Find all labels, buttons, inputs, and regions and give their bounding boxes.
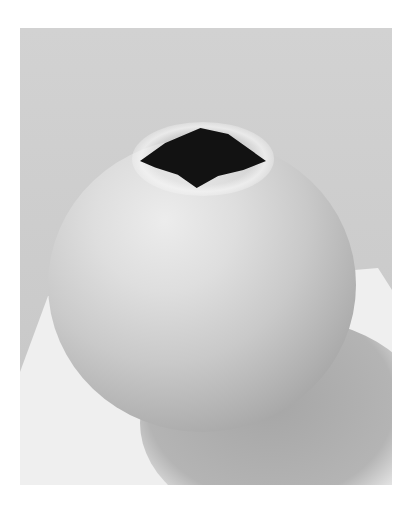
photograph: [20, 28, 392, 485]
